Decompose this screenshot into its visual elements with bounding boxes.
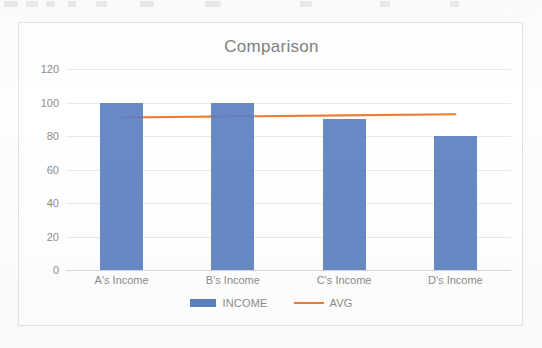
chart-legend[interactable]: INCOMEAVG bbox=[19, 297, 524, 309]
scan-artifact-mark bbox=[4, 1, 18, 7]
chart-title: Comparison bbox=[19, 37, 524, 57]
x-axis-tick-label: D's Income bbox=[428, 274, 483, 286]
legend-label: AVG bbox=[330, 297, 353, 309]
screenshot-canvas: Comparison 020406080100120A's IncomeB's … bbox=[0, 0, 542, 348]
scan-artifact-mark bbox=[26, 1, 38, 7]
legend-item-avg[interactable]: AVG bbox=[294, 297, 353, 309]
legend-label: INCOME bbox=[222, 297, 267, 309]
x-axis-tick-label: B's Income bbox=[206, 274, 260, 286]
y-axis-tick-label: 80 bbox=[47, 130, 59, 142]
scan-artifact-strip bbox=[0, 0, 542, 11]
x-axis-tick-label: C's Income bbox=[317, 274, 372, 286]
y-axis-tick-label: 60 bbox=[47, 164, 59, 176]
legend-bar-swatch-icon bbox=[190, 299, 216, 307]
scan-artifact-mark bbox=[380, 1, 390, 7]
gridline-0 bbox=[66, 270, 511, 271]
y-axis-tick-label: 40 bbox=[47, 197, 59, 209]
legend-line-swatch-icon bbox=[294, 302, 324, 304]
bar-b-s-income[interactable] bbox=[211, 103, 254, 271]
y-axis-tick-label: 100 bbox=[41, 97, 59, 109]
scan-artifact-mark bbox=[205, 1, 221, 7]
scan-artifact-mark bbox=[96, 1, 107, 7]
scan-artifact-mark bbox=[68, 1, 76, 7]
scan-artifact-mark bbox=[450, 1, 459, 7]
bar-a-s-income[interactable] bbox=[100, 103, 143, 271]
bar-c-s-income[interactable] bbox=[323, 119, 366, 270]
scan-artifact-mark bbox=[46, 1, 55, 7]
plot-area: 020406080100120A's IncomeB's IncomeC's I… bbox=[66, 69, 511, 270]
x-axis-tick-label: A's Income bbox=[95, 274, 149, 286]
scan-artifact-mark bbox=[300, 1, 312, 7]
bar-d-s-income[interactable] bbox=[434, 136, 477, 270]
gridline-120 bbox=[66, 69, 511, 70]
scan-artifact-mark bbox=[140, 1, 154, 7]
chart-container[interactable]: Comparison 020406080100120A's IncomeB's … bbox=[18, 22, 523, 326]
y-axis-tick-label: 0 bbox=[53, 264, 59, 276]
legend-item-income[interactable]: INCOME bbox=[190, 297, 267, 309]
y-axis-tick-label: 20 bbox=[47, 231, 59, 243]
y-axis-tick-label: 120 bbox=[41, 63, 59, 75]
